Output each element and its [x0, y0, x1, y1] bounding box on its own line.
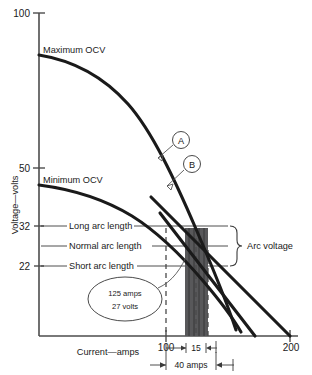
dimension-15-label: 15	[191, 343, 201, 353]
minimum-ocv-label: Minimum OCV	[43, 175, 104, 185]
y-tick-label-50: 50	[19, 163, 31, 174]
arc-voltage-label: Arc voltage	[247, 241, 293, 251]
curve-label-b-text: B	[189, 160, 195, 170]
dimension-40-label: 40 amps	[175, 360, 208, 370]
maximum-ocv-label: Maximum OCV	[43, 45, 106, 55]
y-tick-label-22: 22	[19, 261, 31, 272]
short-arc-label: Short arc length	[69, 261, 134, 271]
x-tick-label-200: 200	[283, 342, 300, 353]
callout-line1: 125 amps	[108, 289, 142, 298]
x-axis-title: Current—amps	[77, 347, 140, 357]
y-axis-title: Voltage—volts	[10, 175, 20, 234]
long-arc-label: Long arc length	[69, 221, 132, 231]
y-tick-label-32: 32	[19, 221, 31, 232]
callout-line2: 27 volts	[112, 302, 138, 311]
volt-ampere-characteristic-chart: 100 50 32 22 100 200 Voltage—volts Curre…	[0, 0, 312, 375]
y-tick-label-100: 100	[13, 8, 30, 19]
normal-arc-label: Normal arc length	[69, 241, 142, 251]
curve-label-a-text: A	[178, 136, 185, 146]
